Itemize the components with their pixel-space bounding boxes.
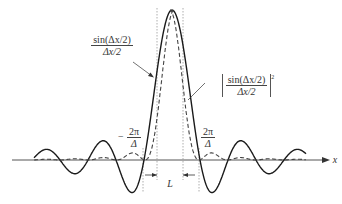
sinc-diagram [0,0,342,204]
label-left-zero-numerator: 2π [127,126,141,138]
label-sinc-squared: sin(Δx/2) Δx/2 2 [210,74,286,97]
label-sinc-squared-power: 2 [271,74,274,80]
x-axis-label: x [330,154,340,165]
figure-caption [100,196,280,204]
label-right-zero: 2π Δ [197,126,219,149]
label-right-zero-numerator: 2π [201,126,215,138]
x-axis-arrow-icon [322,157,330,163]
label-left-zero-denominator: Δ [127,138,141,149]
width-label: L [164,178,176,189]
pointer-sinc [133,62,152,76]
label-left-zero: − 2π Δ [118,126,144,149]
label-sinc: sin(Δx/2) Δx/2 [84,34,140,57]
label-left-zero-sign: − [118,131,124,142]
width-arrowhead-left-icon [152,173,157,177]
label-sinc-denominator: Δx/2 [91,46,133,57]
label-sinc-squared-denominator: Δx/2 [226,86,268,97]
pointer-sinc-squared [188,83,205,100]
label-sinc-squared-numerator: sin(Δx/2) [226,74,268,86]
width-arrowhead-right-icon [183,173,188,177]
label-right-zero-denominator: Δ [201,138,215,149]
sinc-curve [34,10,306,193]
pointer-sinc-arrowhead-icon [148,73,154,78]
label-sinc-numerator: sin(Δx/2) [91,34,133,46]
